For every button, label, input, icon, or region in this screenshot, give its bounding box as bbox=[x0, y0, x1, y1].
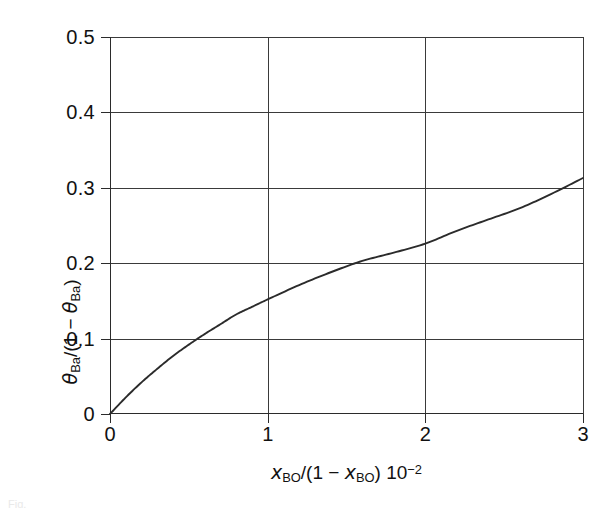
y-title-mid: /(1 − bbox=[60, 313, 81, 357]
x-title-var-1: x bbox=[271, 461, 282, 483]
x-title-mid: /(1 − bbox=[301, 462, 345, 483]
ytick-mark-0.2 bbox=[101, 263, 110, 264]
x-title-var-2: x bbox=[345, 461, 356, 483]
y-title-sub-2: Ba bbox=[68, 286, 83, 302]
ytick-mark-0.5 bbox=[101, 37, 110, 38]
ytick-mark-0 bbox=[101, 414, 110, 415]
x-axis-title: xBO/(1 − xBO) 10−2 bbox=[110, 458, 583, 490]
ytick-label-0.3: 0.3 bbox=[43, 178, 95, 198]
xtick-mark-2 bbox=[425, 414, 426, 423]
ytick-mark-0.4 bbox=[101, 112, 110, 113]
ytick-mark-0.3 bbox=[101, 188, 110, 189]
xtick-mark-3 bbox=[583, 414, 584, 423]
ytick-label-0.5: 0.5 bbox=[43, 27, 95, 47]
xtick-label-0: 0 bbox=[90, 424, 130, 444]
gridline-x-3 bbox=[583, 37, 584, 414]
y-title-theta-2: θ bbox=[59, 302, 81, 314]
y-title-sub-1: Ba bbox=[68, 357, 83, 373]
x-title-sub-1: BO bbox=[282, 470, 301, 485]
y-axis-title: θBa/(1 − θBa) bbox=[59, 237, 87, 427]
y-title-theta-1: θ bbox=[59, 373, 81, 385]
xtick-label-2: 2 bbox=[405, 424, 445, 444]
plot-frame bbox=[110, 37, 583, 414]
x-title-exponent: −2 bbox=[407, 462, 422, 477]
figure-container: 0.5 0.4 0.3 0.2 0.1 0 0 1 2 3 θBa/(1 − θ… bbox=[0, 0, 610, 510]
x-title-close: ) 10 bbox=[375, 462, 408, 483]
x-title-sub-2: BO bbox=[356, 470, 375, 485]
xtick-label-1: 1 bbox=[248, 424, 288, 444]
xtick-mark-1 bbox=[268, 414, 269, 423]
y-title-close: ) bbox=[60, 279, 81, 285]
ytick-label-0.4: 0.4 bbox=[43, 102, 95, 122]
xtick-mark-0 bbox=[110, 414, 111, 423]
ytick-mark-0.1 bbox=[101, 339, 110, 340]
figure-caption: Fig. bbox=[8, 498, 178, 508]
xtick-label-3: 3 bbox=[563, 424, 603, 444]
